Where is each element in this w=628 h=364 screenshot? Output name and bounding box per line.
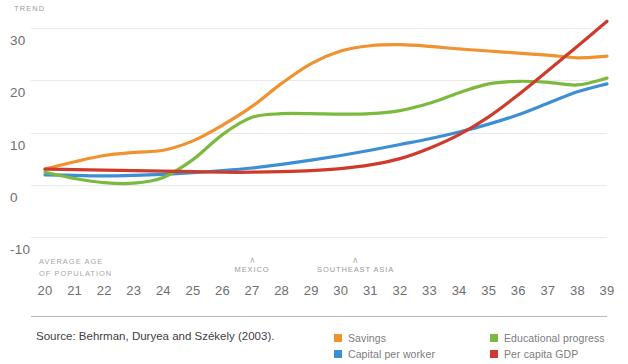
legend-item[interactable]: Educational progress [490,330,605,346]
x-axis-tick-label: 31 [359,284,381,297]
legend-item[interactable]: Savings [334,330,435,346]
x-axis-tick-label: 32 [389,284,411,297]
series-line [45,21,607,172]
legend-swatch-icon [490,350,498,358]
x-axis-tick-label: 33 [419,284,441,297]
legend-column-right: Educational progressPer capita GDP [490,330,605,362]
x-axis-tick-label: 21 [64,284,86,297]
x-axis-tick-label: 24 [152,284,174,297]
x-axis-tick-label: 35 [478,284,500,297]
series-line [45,45,607,169]
x-axis-caption-line2: OF POPULATION [39,269,112,278]
legend-swatch-icon [334,350,342,358]
series-line [45,84,607,176]
series-line [45,78,607,183]
legend-label: Educational progress [504,332,605,344]
x-axis-tick-label: 34 [448,284,470,297]
legend-label: Capital per worker [348,348,435,360]
legend-item[interactable]: Capital per worker [334,346,435,362]
source-note: Source: Behrman, Duryea and Székely (200… [36,330,274,342]
x-axis-tick-label: 28 [271,284,293,297]
plot-area: TREND 3020100-10 AVERAGE AGE OF POPULATI… [0,0,628,310]
chart-figure: TREND 3020100-10 AVERAGE AGE OF POPULATI… [0,0,628,364]
x-axis-tick-label: 38 [566,284,588,297]
legend-label: Savings [348,332,386,344]
x-axis-annotation: ∧SOUTHEAST ASIA [286,256,426,274]
annotation-label: SOUTHEAST ASIA [286,266,426,274]
x-axis-tick-label: 23 [123,284,145,297]
legend-column-left: SavingsCapital per worker [334,330,435,362]
x-axis-tick-label: 39 [596,284,618,297]
x-axis-tick-label: 37 [537,284,559,297]
legend-swatch-icon [334,334,342,342]
x-axis-tick-label: 26 [211,284,233,297]
x-axis-tick-label: 27 [241,284,263,297]
x-axis-tick-label: 36 [507,284,529,297]
x-axis-tick-label: 22 [93,284,115,297]
legend-swatch-icon [490,334,498,342]
x-axis-tick-label: 25 [182,284,204,297]
x-axis-tick-label: 29 [300,284,322,297]
x-axis-tick-label: 30 [330,284,352,297]
legend-label: Per capita GDP [504,348,578,360]
footer-divider [31,316,607,317]
x-axis-caption-line1: AVERAGE AGE [39,257,103,266]
legend-item[interactable]: Per capita GDP [490,346,605,362]
x-axis-caption: AVERAGE AGE OF POPULATION [39,256,112,279]
x-axis-tick-label: 20 [34,284,56,297]
caret-up-icon: ∧ [286,256,426,265]
